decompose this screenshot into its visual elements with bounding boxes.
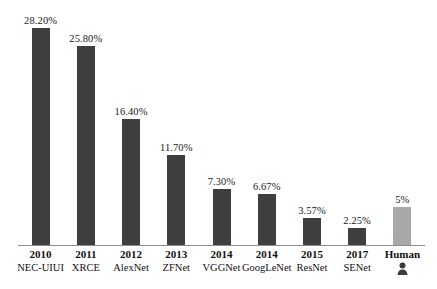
x-label-year: Human xyxy=(370,247,434,261)
bar-column-googlenet: 6.67% xyxy=(245,0,289,245)
bar-xrce[interactable] xyxy=(77,46,95,245)
bar-nec-uiui[interactable] xyxy=(32,28,50,245)
bar-value-label: 7.30% xyxy=(208,176,236,187)
x-label-human: Human xyxy=(370,247,434,275)
bar-zfnet[interactable] xyxy=(167,155,185,245)
bar-column-xrce: 25.80% xyxy=(64,0,108,245)
bar-resnet[interactable] xyxy=(303,218,321,245)
bar-column-alexnet: 16.40% xyxy=(109,0,153,245)
bar-senet[interactable] xyxy=(348,228,366,245)
person-icon xyxy=(397,262,408,275)
bar-value-label: 5% xyxy=(395,194,409,205)
bar-value-label: 6.67% xyxy=(253,181,281,192)
bar-value-label: 16.40% xyxy=(115,106,148,117)
bar-column-zfnet: 11.70% xyxy=(154,0,198,245)
bar-value-label: 2.25% xyxy=(343,215,371,226)
bar-human[interactable] xyxy=(393,207,411,245)
bar-column-senet: 2.25% xyxy=(335,0,379,245)
bar-column-human: 5% xyxy=(380,0,424,245)
bar-column-vggnet: 7.30% xyxy=(200,0,244,245)
bar-alexnet[interactable] xyxy=(122,119,140,245)
bar-value-label: 28.20% xyxy=(24,15,57,26)
x-axis-labels: 2010NEC-UIUI2011XRCE2012AlexNet2013ZFNet… xyxy=(0,247,437,289)
bar-value-label: 25.80% xyxy=(69,33,102,44)
bar-googlenet[interactable] xyxy=(258,194,276,245)
bar-chart: 28.20%25.80%16.40%11.70%7.30%6.67%3.57%2… xyxy=(0,0,437,289)
bar-column-nec-uiui: 28.20% xyxy=(19,0,63,245)
bar-value-label: 11.70% xyxy=(160,142,193,153)
bar-column-resnet: 3.57% xyxy=(290,0,334,245)
bar-value-label: 3.57% xyxy=(298,205,326,216)
bars-layer: 28.20%25.80%16.40%11.70%7.30%6.67%3.57%2… xyxy=(0,0,437,245)
bar-vggnet[interactable] xyxy=(213,189,231,245)
x-axis-baseline xyxy=(18,245,425,246)
